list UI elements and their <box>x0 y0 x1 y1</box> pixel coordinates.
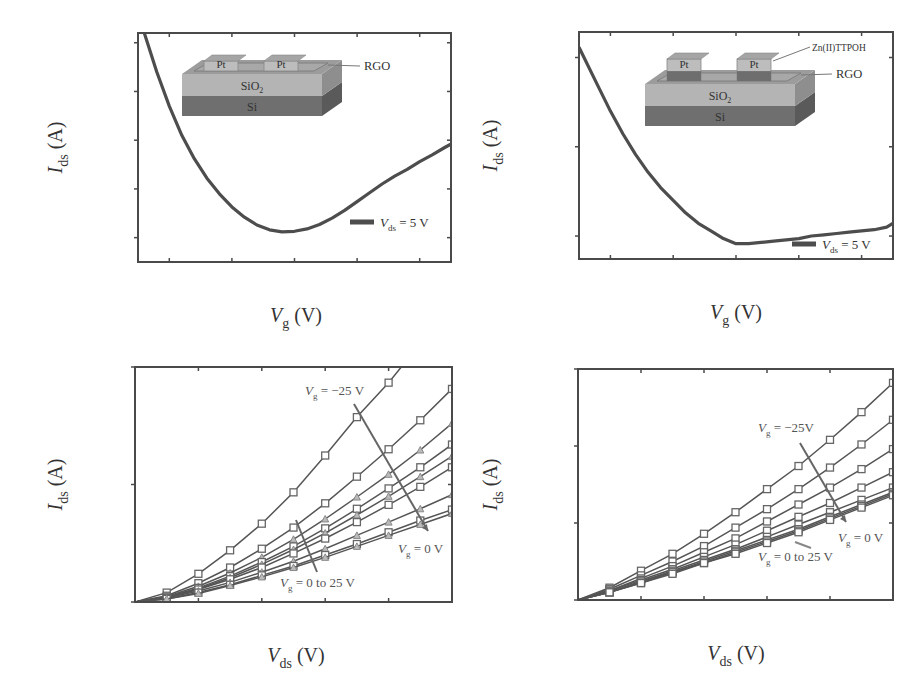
data-marker <box>795 463 802 470</box>
data-marker <box>290 536 297 543</box>
data-marker <box>827 436 834 443</box>
data-marker <box>858 466 865 473</box>
data-marker <box>290 550 297 557</box>
panel-c: Vg (V)Ids (A)PtPtSiO2SiRGOZn(II)TTPOHVds… <box>479 32 893 328</box>
data-marker <box>795 529 802 536</box>
data-marker <box>795 513 802 520</box>
x-axis-label: Vds (V) <box>267 644 324 671</box>
data-marker <box>322 535 329 542</box>
device-inset: PtPtSiO2SiRGOZn(II)TTPOH <box>645 43 866 126</box>
data-marker <box>227 547 234 554</box>
annotation-vg-neg25: Vg = −25 V <box>305 383 365 401</box>
plot-area <box>578 379 897 600</box>
data-marker <box>417 473 424 480</box>
annotation-vg-0: Vg = 0 V <box>838 530 884 548</box>
data-marker <box>353 473 360 480</box>
data-marker <box>764 540 771 547</box>
data-marker <box>258 545 265 552</box>
zn-ttpoh-layer <box>667 71 701 81</box>
data-marker <box>858 441 865 448</box>
annotation-vg-0: Vg = 0 V <box>398 541 444 559</box>
zn-ttpoh-layer <box>737 71 771 81</box>
data-marker <box>417 340 424 347</box>
annotation-vg-neg25: Vg = −25V <box>758 420 815 438</box>
plot-frame <box>578 369 893 600</box>
data-marker <box>732 550 739 557</box>
data-marker <box>385 501 392 508</box>
panel-a: Vg (V)Ids (A)PtPtSiO2SiRGOVds = 5 V <box>44 33 451 331</box>
figure: Vg (V)Ids (A)PtPtSiO2SiRGOVds = 5 VVds (… <box>0 0 921 694</box>
legend-label: Vds = 5 V <box>822 237 871 255</box>
output-curve <box>578 383 893 600</box>
data-marker <box>385 485 392 492</box>
x-axis-label: Vg (V) <box>270 304 322 331</box>
data-marker <box>669 550 676 557</box>
data-marker <box>858 409 865 416</box>
panel-b: Vds (V)Ids (A)Vg = −25 VVg = 0 VVg = 0 t… <box>44 301 456 671</box>
si-label: Si <box>247 100 258 114</box>
pt-label: Pt <box>216 58 225 70</box>
data-marker <box>795 486 802 493</box>
data-marker <box>385 379 392 386</box>
si-label: Si <box>715 110 726 124</box>
data-marker <box>322 452 329 459</box>
y-axis-label: Ids (A) <box>44 459 71 512</box>
annotation-vg-0-to-25: Vg = 0 to 25 V <box>758 549 833 567</box>
trend-arrow-2 <box>795 542 811 548</box>
data-marker <box>669 570 676 577</box>
data-marker <box>858 504 865 511</box>
data-marker <box>417 483 424 490</box>
data-marker <box>385 493 392 500</box>
data-marker <box>764 486 771 493</box>
data-marker <box>417 464 424 471</box>
data-marker <box>638 580 645 587</box>
x-axis-label: Vds (V) <box>707 642 764 669</box>
rgo-callout-label: RGO <box>836 67 862 81</box>
pt-label: Pt <box>276 58 285 70</box>
data-marker <box>732 524 739 531</box>
panel-d: Vds (V)Ids (A)Vg = −25VVg = 0 VVg = 0 to… <box>479 369 897 669</box>
pt-label: Pt <box>679 58 688 70</box>
data-marker <box>290 489 297 496</box>
data-marker <box>764 506 771 513</box>
data-marker <box>258 520 265 527</box>
device-inset: PtPtSiO2SiRGO <box>182 55 390 116</box>
legend-label: Vds = 5 V <box>380 215 429 233</box>
data-marker <box>606 589 613 596</box>
data-marker <box>858 484 865 491</box>
y-axis-label: Ids (A) <box>479 120 506 173</box>
data-marker <box>322 500 329 507</box>
data-marker <box>701 530 708 537</box>
rgo-callout-label: RGO <box>364 59 390 73</box>
data-marker <box>417 417 424 424</box>
data-marker <box>827 464 834 471</box>
data-marker <box>764 518 771 525</box>
data-marker <box>827 516 834 523</box>
annotation-vg-0-to-25: Vg = 0 to 25 V <box>280 575 355 593</box>
data-marker <box>449 301 456 308</box>
zn-callout-line <box>773 47 810 61</box>
y-axis-label: Ids (A) <box>44 122 71 175</box>
pt-label: Pt <box>749 58 758 70</box>
data-marker <box>732 509 739 516</box>
data-marker <box>353 519 360 526</box>
data-marker <box>290 524 297 531</box>
data-marker <box>385 446 392 453</box>
y-axis-label: Ids (A) <box>479 459 506 512</box>
data-marker <box>417 505 424 512</box>
zn-callout-label: Zn(II)TTPOH <box>812 43 866 54</box>
data-marker <box>195 570 202 577</box>
data-marker <box>795 501 802 508</box>
data-marker <box>701 560 708 567</box>
x-axis-label: Vg (V) <box>710 301 762 328</box>
